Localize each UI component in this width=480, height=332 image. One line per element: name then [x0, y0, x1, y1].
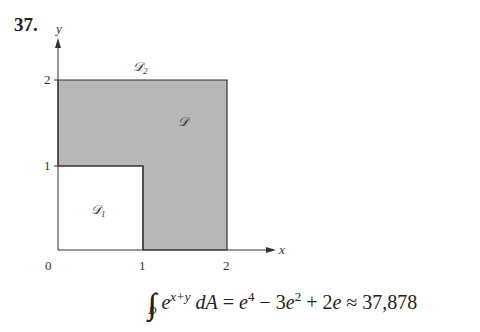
origin-label: 0	[45, 258, 52, 273]
y-axis-label: y	[54, 21, 62, 36]
integral-formula: ∫∫D ex+y dA = e4 − 3e2 + 2e ≈ 37,878	[148, 282, 417, 316]
x-axis-label: x	[278, 242, 285, 257]
x-tick-1: 1	[139, 258, 146, 273]
y-tick-2: 2	[44, 72, 51, 87]
region-d2-label: 𝒟2	[133, 59, 148, 76]
y-arrow-icon	[55, 38, 61, 48]
region-d1-label: 𝒟1	[91, 202, 106, 219]
x-arrow-icon	[266, 247, 276, 253]
y-tick-1: 1	[44, 158, 51, 173]
x-tick-2: 2	[223, 258, 230, 273]
